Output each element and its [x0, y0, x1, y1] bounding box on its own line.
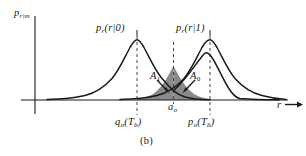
area-a1-main: A [150, 70, 157, 81]
y-axis-label: pr|m [14, 8, 30, 19]
area-a0-main: A [190, 70, 197, 81]
curve-label-density-given-1: pr(r|1) [176, 23, 205, 34]
po-arg-end: ) [211, 116, 215, 127]
area-a0-sub: 0 [197, 75, 201, 83]
qo-sub: o [120, 121, 124, 129]
annotation-area-a1: A1 [150, 71, 160, 82]
po-arg-sub: b [207, 121, 211, 129]
curve-label-1-sub: r [181, 27, 184, 35]
figure-caption: (b) [140, 136, 153, 147]
annotation-threshold-ao: ao [168, 102, 177, 113]
qo-arg-sub: b [134, 121, 138, 129]
curve-label-1-arg: (r|1) [184, 22, 204, 33]
area-a1-sub: 1 [157, 75, 161, 83]
threshold-sub: o [173, 106, 177, 114]
curve-label-0-arg: (r|0) [104, 22, 124, 33]
curve-label-density-given-0: pr(r|0) [96, 23, 125, 34]
x-tick-label-qo: qo(Tb) [115, 117, 141, 128]
qo-arg: (T [124, 116, 134, 127]
x-tick-label-po: po(Tb) [188, 117, 214, 128]
y-axis-label-sub: r|m [19, 12, 29, 20]
figure-container: pr|m pr(r|0) pr(r|1) A1 A0 ao qo(Tb) po(… [0, 0, 306, 156]
qo-arg-end: ) [138, 116, 142, 127]
po-arg: (T [197, 116, 207, 127]
po-sub: o [193, 121, 197, 129]
annotation-area-a0: A0 [190, 71, 200, 82]
curve-label-0-sub: r [101, 27, 104, 35]
x-axis-label: r [277, 100, 281, 111]
x-axis-arrow-icon [285, 102, 303, 108]
